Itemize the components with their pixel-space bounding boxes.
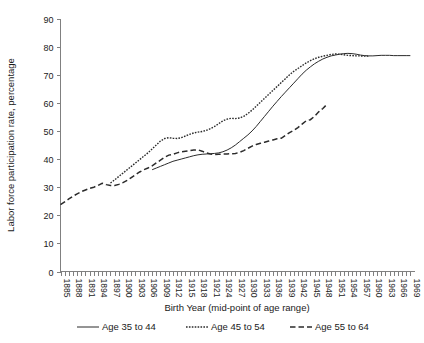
x-tick-label: 1942 xyxy=(299,279,309,298)
y-tick-label: 70 xyxy=(43,71,53,81)
y-axis-tick-labels: 0102030405060708090 xyxy=(43,15,53,278)
x-tick-label: 1954 xyxy=(349,279,359,298)
x-tick-label: 1960 xyxy=(374,279,384,298)
y-tick-label: 0 xyxy=(48,268,53,278)
legend-label-2: Age 45 to 54 xyxy=(211,321,265,332)
x-axis-minor-ticks xyxy=(62,272,411,276)
x-tick-label: 1888 xyxy=(74,279,84,298)
x-tick-label: 1921 xyxy=(212,279,222,298)
x-tick-label: 1897 xyxy=(112,279,122,298)
x-tick-label: 1912 xyxy=(174,279,184,298)
x-tick-label: 1948 xyxy=(324,279,334,298)
series-lines xyxy=(61,53,411,204)
x-tick-label: 1951 xyxy=(337,279,347,298)
x-tick-label: 1900 xyxy=(124,279,134,298)
x-tick-label: 1891 xyxy=(87,279,97,298)
x-axis-title: Birth Year (mid-point of age range) xyxy=(164,302,309,313)
x-tick-label: 1915 xyxy=(187,279,197,298)
x-axis: 1885188818911894189719001903190619091912… xyxy=(61,272,422,298)
y-tick-label: 30 xyxy=(43,183,53,193)
x-tick-label: 1969 xyxy=(412,279,422,298)
y-tick-label: 90 xyxy=(43,15,53,25)
x-tick-label: 1906 xyxy=(149,279,159,298)
legend-label-1: Age 35 to 44 xyxy=(102,321,156,332)
series-line-3 xyxy=(61,104,328,204)
y-tick-label: 10 xyxy=(43,239,53,249)
labor-force-participation-chart: 0102030405060708090 18851888189118941897… xyxy=(0,0,424,343)
chart-legend: Age 35 to 44Age 45 to 54Age 55 to 64 xyxy=(77,321,369,332)
y-axis-ticks xyxy=(57,20,61,273)
x-tick-label: 1885 xyxy=(62,279,72,298)
legend-label-3: Age 55 to 64 xyxy=(315,321,369,332)
y-tick-label: 40 xyxy=(43,155,53,165)
x-tick-label: 1936 xyxy=(274,279,284,298)
x-tick-label: 1930 xyxy=(249,279,259,298)
series-line-1 xyxy=(152,53,410,169)
y-tick-label: 20 xyxy=(43,211,53,221)
x-tick-label: 1963 xyxy=(387,279,397,298)
x-tick-label: 1945 xyxy=(312,279,322,298)
y-tick-label: 60 xyxy=(43,99,53,109)
x-tick-label: 1927 xyxy=(237,279,247,298)
x-tick-label: 1939 xyxy=(287,279,297,298)
y-axis: 0102030405060708090 xyxy=(43,15,60,278)
x-tick-label: 1966 xyxy=(399,279,409,298)
chart-svg: 0102030405060708090 18851888189118941897… xyxy=(0,0,424,343)
x-tick-label: 1933 xyxy=(262,279,272,298)
x-tick-label: 1894 xyxy=(99,279,109,298)
x-tick-label: 1924 xyxy=(224,279,234,298)
y-tick-label: 50 xyxy=(43,127,53,137)
x-axis-tick-labels: 1885188818911894189719001903190619091912… xyxy=(62,279,422,298)
series-line-2 xyxy=(110,54,368,183)
y-tick-label: 80 xyxy=(43,43,53,53)
x-tick-label: 1903 xyxy=(137,279,147,298)
y-axis-title: Labor force participation rate, percenta… xyxy=(5,58,16,232)
x-tick-label: 1918 xyxy=(199,279,209,298)
x-tick-label: 1909 xyxy=(162,279,172,298)
x-tick-label: 1957 xyxy=(362,279,372,298)
